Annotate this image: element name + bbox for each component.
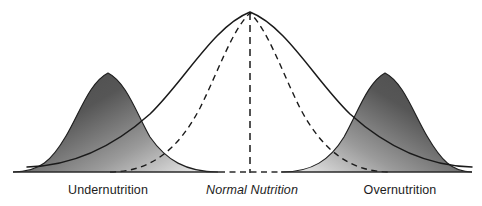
nutrition-distribution-figure: Undernutrition Normal Nutrition Overnutr…: [0, 0, 482, 206]
undernutrition-curve-fill: [13, 73, 218, 172]
undernutrition-curve-group: [13, 73, 218, 172]
normal-nutrition-label: Normal Nutrition: [186, 184, 318, 197]
overnutrition-label: Overnutrition: [318, 184, 482, 197]
undernutrition-label: Undernutrition: [0, 184, 216, 197]
overnutrition-curve-group: [282, 73, 472, 172]
distribution-chart-svg: [0, 0, 482, 206]
overnutrition-curve-fill: [282, 73, 472, 172]
